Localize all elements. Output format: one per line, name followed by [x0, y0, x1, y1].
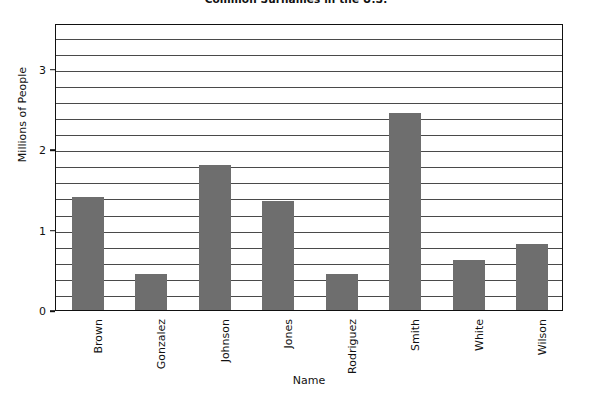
x-tick-label: Smith: [409, 319, 422, 351]
y-tick-mark: [50, 149, 55, 151]
bar: [516, 244, 548, 310]
chart-title: Common Surnames in the U.S.: [0, 0, 592, 5]
y-tick-label: 1: [39, 224, 46, 237]
bar: [199, 165, 231, 310]
plot-area: [55, 24, 563, 311]
bar: [389, 113, 421, 310]
x-tick-label: Brown: [92, 319, 105, 354]
y-tick-mark: [50, 230, 55, 232]
x-tick-label: Gonzalez: [155, 319, 168, 369]
bar: [262, 201, 294, 310]
y-tick-label: 0: [39, 305, 46, 318]
bar: [135, 274, 167, 310]
bars-series: [56, 25, 562, 310]
y-axis-label: Millions of People: [16, 35, 29, 195]
x-tick-label: White: [473, 319, 486, 351]
x-axis-label: Name: [55, 374, 563, 387]
x-axis: BrownGonzalezJohnsonJonesRodriguezSmithW…: [55, 311, 563, 381]
x-tick-label: Wilson: [536, 319, 549, 355]
x-tick-label: Jones: [282, 319, 295, 348]
y-tick-label: 3: [39, 63, 46, 76]
y-tick-label: 2: [39, 144, 46, 157]
x-tick-label: Johnson: [219, 319, 232, 362]
bar: [453, 260, 485, 310]
bar-chart-figure: Common Surnames in the U.S. 0123 Million…: [0, 0, 592, 408]
x-tick-label: Rodriguez: [346, 319, 359, 374]
bar: [72, 197, 104, 310]
bar: [326, 274, 358, 310]
y-tick-mark: [50, 69, 55, 71]
